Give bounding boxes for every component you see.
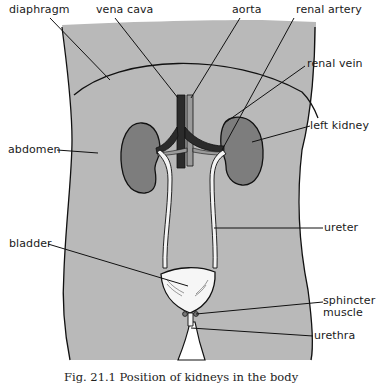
label-renal-artery: renal artery — [296, 4, 362, 16]
label-diaphragm: diaphragm — [9, 4, 70, 16]
sphincter-muscle-left — [183, 312, 188, 317]
label-ureter: ureter — [324, 222, 358, 234]
label-left-kidney: left kidney — [310, 120, 369, 132]
left-kidney — [221, 117, 263, 185]
right-kidney — [121, 123, 160, 193]
label-abdomen: abdomen — [8, 144, 61, 156]
label-renal-vein: renal vein — [307, 58, 363, 70]
label-sphincter-line2: muscle — [323, 307, 363, 319]
label-bladder: bladder — [9, 238, 52, 250]
urethra — [188, 313, 193, 326]
figure-caption: Fig. 21.1 Position of kidneys in the bod… — [64, 370, 298, 384]
label-aorta: aorta — [232, 4, 262, 16]
label-urethra: urethra — [314, 330, 355, 342]
label-vena-cava: vena cava — [96, 4, 153, 16]
vena-cava — [177, 95, 185, 168]
